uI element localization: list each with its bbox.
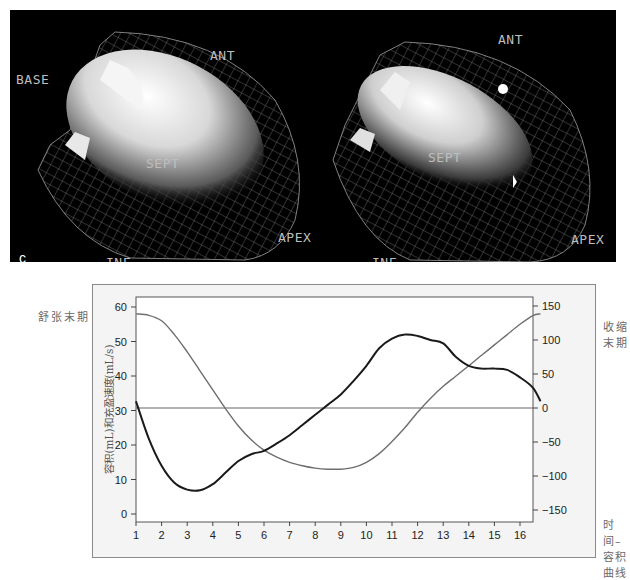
x-tick-label: 2 xyxy=(159,529,165,541)
label-apex-right: APEX xyxy=(571,232,604,247)
x-tick-label: 4 xyxy=(210,529,216,541)
time-volume-chart: 0102030405060 −150−100−50050100150 12345… xyxy=(93,285,597,559)
x-tick-label: 10 xyxy=(360,529,372,541)
left-heart xyxy=(38,17,300,260)
x-tick-label: 9 xyxy=(338,529,344,541)
heart-renderings xyxy=(10,10,616,262)
label-ant-right: ANT xyxy=(498,32,523,47)
x-tick-label: 1 xyxy=(133,529,139,541)
left-axis: 0102030405060 xyxy=(115,301,136,520)
x-tick-label: 5 xyxy=(235,529,241,541)
x-tick-label: 7 xyxy=(287,529,293,541)
y-axis-label: 容积(mL)和充盈速度(mL/s) xyxy=(103,344,115,473)
left-tick-label: 20 xyxy=(115,439,127,451)
right-axis: −150−100−50050100150 xyxy=(533,300,567,516)
label-inf-right: INF xyxy=(372,255,397,262)
x-tick-label: 16 xyxy=(514,529,526,541)
x-tick-label: 11 xyxy=(386,529,397,541)
label-inf-left: INF xyxy=(106,255,131,262)
left-tick-label: 30 xyxy=(115,405,127,417)
panel-letter: c xyxy=(19,250,26,262)
left-tick-label: 60 xyxy=(115,301,127,313)
right-tick-label: 100 xyxy=(542,334,560,346)
label-sept-right: SEPT xyxy=(428,150,461,165)
x-tick-label: 13 xyxy=(437,529,449,541)
left-tick-label: 10 xyxy=(115,474,127,486)
left-tick-label: 40 xyxy=(115,370,127,382)
label-sept-left: SEPT xyxy=(146,156,179,171)
x-tick-label: 6 xyxy=(261,529,267,541)
plot-area xyxy=(136,297,533,522)
chart-panel: 0102030405060 −150−100−50050100150 12345… xyxy=(92,284,596,558)
left-tick-label: 0 xyxy=(121,508,127,520)
label-base-left: BASE xyxy=(16,72,49,87)
right-heart xyxy=(333,39,590,262)
label-end-systole: 收缩末期 xyxy=(603,318,630,350)
right-tick-label: −50 xyxy=(542,436,561,448)
x-tick-label: 3 xyxy=(184,529,190,541)
marker-dot xyxy=(498,84,508,94)
left-tick-label: 50 xyxy=(115,336,127,348)
label-ant-left: ANT xyxy=(210,48,235,63)
right-tick-label: 150 xyxy=(542,300,560,312)
label-end-diastole: 舒张末期 xyxy=(38,308,90,324)
x-axis: 12345678910111213141516 xyxy=(133,522,526,541)
right-tick-label: 50 xyxy=(542,368,554,380)
label-apex-left: APEX xyxy=(278,230,311,245)
x-tick-label: 8 xyxy=(312,529,318,541)
right-tick-label: −150 xyxy=(542,504,567,516)
right-tick-label: −100 xyxy=(542,470,567,482)
x-tick-label: 12 xyxy=(411,529,423,541)
x-tick-label: 14 xyxy=(463,529,475,541)
right-tick-label: 0 xyxy=(542,402,548,414)
label-time-volume-curve: 时间–容积曲线 xyxy=(603,516,630,580)
x-tick-label: 15 xyxy=(488,529,500,541)
heart-3d-panel: BASE ANT SEPT APEX INF c ANT SEPT APEX I… xyxy=(10,10,616,262)
